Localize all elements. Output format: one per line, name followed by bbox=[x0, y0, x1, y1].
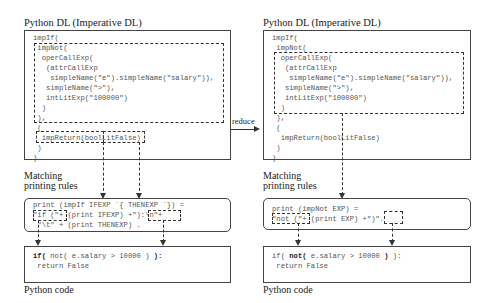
left-python-label: Python code bbox=[24, 285, 74, 295]
right-close-literal-highlight bbox=[384, 211, 403, 224]
left-python-code: if( not( e.salary > 10000 ) ): return Fa… bbox=[33, 251, 162, 271]
reduce-arrow-line bbox=[231, 129, 255, 130]
right-dl-title: Python DL (Imperative DL) bbox=[263, 17, 381, 28]
reduce-label: reduce bbox=[232, 116, 255, 126]
left-connector-2 bbox=[139, 142, 140, 196]
right-not-literal-highlight bbox=[272, 213, 310, 224]
arrow-right-icon bbox=[254, 126, 260, 132]
right-python-label: Python code bbox=[263, 285, 313, 295]
left-dl-title: Python DL (Imperative DL) bbox=[24, 17, 142, 28]
left-rules-label: Matchingprinting rules bbox=[24, 171, 78, 191]
right-rules-label: Matchingprinting rules bbox=[263, 171, 317, 191]
left-connector-1 bbox=[103, 142, 104, 196]
left-impreturn-highlight-a bbox=[36, 131, 104, 143]
left-connector-4 bbox=[163, 220, 164, 242]
left-ifexp-highlight bbox=[34, 43, 224, 123]
left-connector-3 bbox=[38, 220, 39, 242]
right-exp-highlight bbox=[274, 52, 464, 114]
right-connector-1 bbox=[342, 113, 343, 195]
left-close-literal-highlight bbox=[148, 210, 181, 221]
right-python-code: if( not( e.salary > 10000 ) ): return Fa… bbox=[272, 251, 401, 271]
